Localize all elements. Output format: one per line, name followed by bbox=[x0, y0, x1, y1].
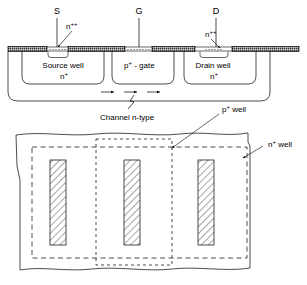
n-plus-well-label: n+ well bbox=[268, 139, 292, 149]
source-well-doping: n+ bbox=[60, 71, 68, 81]
finger-bar-3 bbox=[198, 160, 214, 245]
finger-bar-2 bbox=[124, 160, 140, 245]
drain-well-doping: n+ bbox=[210, 71, 218, 81]
finger-bar-1 bbox=[50, 160, 66, 245]
p-plus-gate-label: p+ - gate bbox=[124, 60, 155, 70]
drain-nplusplus-label: n++ bbox=[205, 29, 217, 39]
substrate-boundary bbox=[8, 52, 270, 102]
source-nplusplus-pocket bbox=[48, 52, 68, 58]
channel-leader-line bbox=[128, 95, 134, 109]
figure-root: S G D n++ n++ Source well n+ p+ - gate D… bbox=[0, 0, 307, 285]
source-nplusplus-label: n++ bbox=[66, 21, 78, 31]
gate-terminal-letter: G bbox=[135, 6, 142, 16]
drain-well-label: Drain well bbox=[195, 61, 230, 70]
drain-terminal-letter: D bbox=[213, 6, 220, 16]
channel-n-type-label: Channel n-type bbox=[100, 113, 155, 122]
p-plus-well-label: p+ well bbox=[222, 104, 246, 114]
figure-canvas: S G D n++ n++ Source well n+ p+ - gate D… bbox=[0, 0, 307, 285]
source-nplusplus-leader bbox=[58, 31, 72, 47]
drain-nplusplus-leader bbox=[211, 39, 220, 48]
n-plus-well-leader bbox=[243, 146, 263, 158]
p-plus-well-leader bbox=[172, 114, 219, 148]
source-well-label: Source well bbox=[42, 61, 84, 70]
drain-nplusplus-pocket bbox=[200, 52, 228, 58]
source-terminal-letter: S bbox=[54, 6, 60, 16]
